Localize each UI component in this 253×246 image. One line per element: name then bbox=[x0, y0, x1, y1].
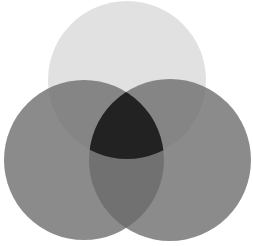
venn-diagram bbox=[0, 0, 253, 246]
venn-svg bbox=[0, 0, 253, 246]
